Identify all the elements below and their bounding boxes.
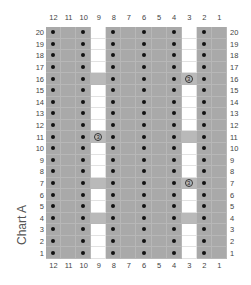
chart-cell xyxy=(136,97,151,109)
chart-cell xyxy=(136,247,151,259)
chart-cell xyxy=(106,201,121,213)
purl-dot-icon xyxy=(202,204,206,208)
purl-dot-icon xyxy=(111,193,115,197)
purl-dot-icon xyxy=(142,100,146,104)
row-label: 14 xyxy=(30,97,44,109)
chart-cell xyxy=(91,62,106,74)
chart-cell xyxy=(76,143,91,155)
row-label: 5 xyxy=(230,201,244,213)
chart-cell xyxy=(106,73,121,85)
purl-dot-icon xyxy=(202,111,206,115)
column-label: 11 xyxy=(61,13,76,23)
chart-cell xyxy=(152,213,167,225)
chart-cell xyxy=(46,224,61,236)
chart-cell xyxy=(152,131,167,143)
chart-cell xyxy=(121,155,136,167)
chart-cell xyxy=(152,39,167,51)
chart-cell xyxy=(212,62,227,74)
purl-dot-icon xyxy=(142,135,146,139)
chart-cell xyxy=(46,155,61,167)
chart-cell xyxy=(167,247,182,259)
chart-cell xyxy=(152,27,167,39)
chart-cell xyxy=(76,131,91,143)
row-label: 19 xyxy=(30,39,44,51)
purl-dot-icon xyxy=(51,135,55,139)
purl-dot-icon xyxy=(111,181,115,185)
row-label: 1 xyxy=(230,247,244,259)
chart-cell xyxy=(106,131,121,143)
row-label: 19 xyxy=(230,39,244,51)
purl-dot-icon xyxy=(51,216,55,220)
purl-dot-icon xyxy=(81,204,85,208)
chart-cell xyxy=(197,50,212,62)
chart-cell xyxy=(182,236,197,248)
chart-cell xyxy=(212,27,227,39)
chart-cell xyxy=(61,97,76,109)
chart-cell xyxy=(182,143,197,155)
chart-cell xyxy=(121,224,136,236)
row-label: 11 xyxy=(230,131,244,143)
chart-cell xyxy=(121,166,136,178)
column-label: 10 xyxy=(76,13,91,23)
chart-cell xyxy=(197,108,212,120)
purl-dot-icon xyxy=(202,123,206,127)
chart-cell xyxy=(91,178,106,190)
chart-cell xyxy=(91,189,106,201)
column-label: 8 xyxy=(106,261,121,271)
purl-dot-icon xyxy=(51,88,55,92)
purl-dot-icon xyxy=(202,146,206,150)
purl-dot-icon xyxy=(111,158,115,162)
column-label: 5 xyxy=(152,13,167,23)
circled-three-icon: 3 xyxy=(185,75,193,83)
chart-cell xyxy=(106,27,121,39)
chart-cell xyxy=(197,120,212,132)
chart-cell xyxy=(136,213,151,225)
purl-dot-icon xyxy=(202,77,206,81)
purl-dot-icon xyxy=(111,216,115,220)
chart-cell xyxy=(152,85,167,97)
chart-cell xyxy=(46,143,61,155)
chart-cell xyxy=(182,62,197,74)
chart-cell xyxy=(182,224,197,236)
chart-cell xyxy=(167,97,182,109)
purl-dot-icon xyxy=(81,123,85,127)
chart-cell xyxy=(61,85,76,97)
purl-dot-icon xyxy=(202,251,206,255)
chart-cell xyxy=(212,50,227,62)
chart-cell xyxy=(152,108,167,120)
chart-cell xyxy=(197,155,212,167)
chart-cell xyxy=(121,62,136,74)
chart-cell xyxy=(167,108,182,120)
purl-dot-icon xyxy=(111,227,115,231)
chart-cell xyxy=(152,97,167,109)
chart-cell xyxy=(136,108,151,120)
row-label: 1 xyxy=(30,247,44,259)
column-labels-top: 121110987654321 xyxy=(46,13,227,23)
chart-cell xyxy=(46,50,61,62)
purl-dot-icon xyxy=(81,42,85,46)
row-label: 11 xyxy=(30,131,44,143)
row-labels-left: 2019181716151413121110987654321 xyxy=(30,27,44,259)
purl-dot-icon xyxy=(172,251,176,255)
purl-dot-icon xyxy=(81,239,85,243)
chart-cell xyxy=(61,143,76,155)
chart-cell: 3 xyxy=(182,73,197,85)
chart-cell xyxy=(212,247,227,259)
chart-cell xyxy=(61,247,76,259)
chart-cell xyxy=(167,189,182,201)
purl-dot-icon xyxy=(142,251,146,255)
chart-cell xyxy=(91,166,106,178)
purl-dot-icon xyxy=(81,146,85,150)
chart-cell xyxy=(121,85,136,97)
chart-cell xyxy=(121,39,136,51)
column-label: 11 xyxy=(61,261,76,271)
purl-dot-icon xyxy=(111,239,115,243)
chart-cell xyxy=(61,178,76,190)
row-label: 13 xyxy=(230,108,244,120)
row-label: 15 xyxy=(230,85,244,97)
row-label: 9 xyxy=(30,155,44,167)
purl-dot-icon xyxy=(81,251,85,255)
chart-cell xyxy=(212,39,227,51)
purl-dot-icon xyxy=(81,169,85,173)
purl-dot-icon xyxy=(142,88,146,92)
